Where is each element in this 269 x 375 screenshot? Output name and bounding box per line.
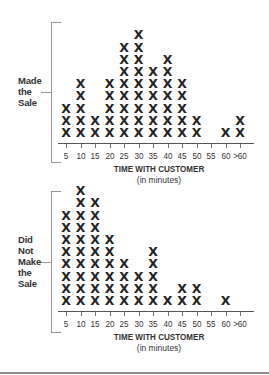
x-tick [110, 312, 111, 316]
x-tick [182, 312, 183, 316]
x-marker: X [89, 234, 101, 246]
x-marker: X [60, 222, 72, 234]
x-tick [226, 312, 227, 316]
x-marker: X [191, 295, 203, 307]
x-marker: X [147, 295, 159, 307]
x-marker: X [133, 295, 145, 307]
x-tick [197, 312, 198, 316]
x-marker: X [118, 258, 130, 270]
no-sale-panel: Did Not Make the Sale XXXXXXXXXXXXXXXXXX… [0, 0, 269, 375]
x-marker: X [89, 295, 101, 307]
x-marker: X [104, 234, 116, 246]
x-tick [66, 312, 67, 316]
x-axis-subtitle: (in minutes) [79, 343, 239, 353]
x-marker: X [191, 283, 203, 295]
x-tick [81, 312, 82, 316]
x-marker: X [133, 283, 145, 295]
x-marker: X [104, 295, 116, 307]
x-marker: X [104, 258, 116, 270]
x-marker: X [89, 210, 101, 222]
x-tick [139, 312, 140, 316]
x-marker: X [75, 222, 87, 234]
x-tick [211, 312, 212, 316]
x-marker: X [220, 295, 232, 307]
x-tick-label: >60 [232, 318, 249, 329]
x-marker: X [60, 246, 72, 258]
no-sale-bracket [51, 191, 52, 333]
x-marker: X [89, 271, 101, 283]
x-marker: X [75, 234, 87, 246]
x-tick [240, 312, 241, 316]
x-marker: X [75, 258, 87, 270]
x-marker: X [147, 283, 159, 295]
x-marker: X [75, 246, 87, 258]
x-marker: X [89, 283, 101, 295]
x-marker: X [89, 197, 101, 209]
x-marker: X [75, 210, 87, 222]
x-tick [153, 312, 154, 316]
x-marker: X [118, 295, 130, 307]
x-marker: X [75, 197, 87, 209]
x-marker: X [104, 271, 116, 283]
x-marker: X [104, 283, 116, 295]
x-marker: X [60, 234, 72, 246]
x-marker: X [147, 271, 159, 283]
x-tick [95, 312, 96, 316]
x-tick [168, 312, 169, 316]
x-tick [124, 312, 125, 316]
x-marker: X [89, 258, 101, 270]
x-marker: X [60, 271, 72, 283]
x-marker: X [133, 271, 145, 283]
x-marker: X [176, 295, 188, 307]
x-marker: X [162, 295, 174, 307]
x-marker: X [60, 295, 72, 307]
x-axis-title: TIME WITH CUSTOMER [91, 331, 227, 342]
x-marker: X [147, 258, 159, 270]
bottom-divider [0, 372, 269, 374]
x-marker: X [75, 185, 87, 197]
x-marker: X [118, 283, 130, 295]
x-marker: X [89, 222, 101, 234]
x-marker: X [75, 271, 87, 283]
x-marker: X [147, 246, 159, 258]
x-marker: X [60, 258, 72, 270]
no-sale-label: Did Not Make the Sale [18, 234, 41, 289]
x-marker: X [60, 210, 72, 222]
x-marker: X [75, 283, 87, 295]
x-marker: X [104, 246, 116, 258]
x-marker: X [89, 246, 101, 258]
x-marker: X [118, 271, 130, 283]
x-marker: X [176, 283, 188, 295]
x-marker: X [60, 283, 72, 295]
x-marker: X [75, 295, 87, 307]
